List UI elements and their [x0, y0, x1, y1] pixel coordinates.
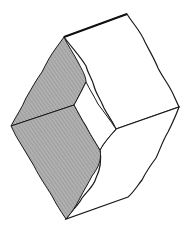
crystal-illustration: [0, 0, 190, 226]
crystal-drawing: [0, 0, 190, 226]
